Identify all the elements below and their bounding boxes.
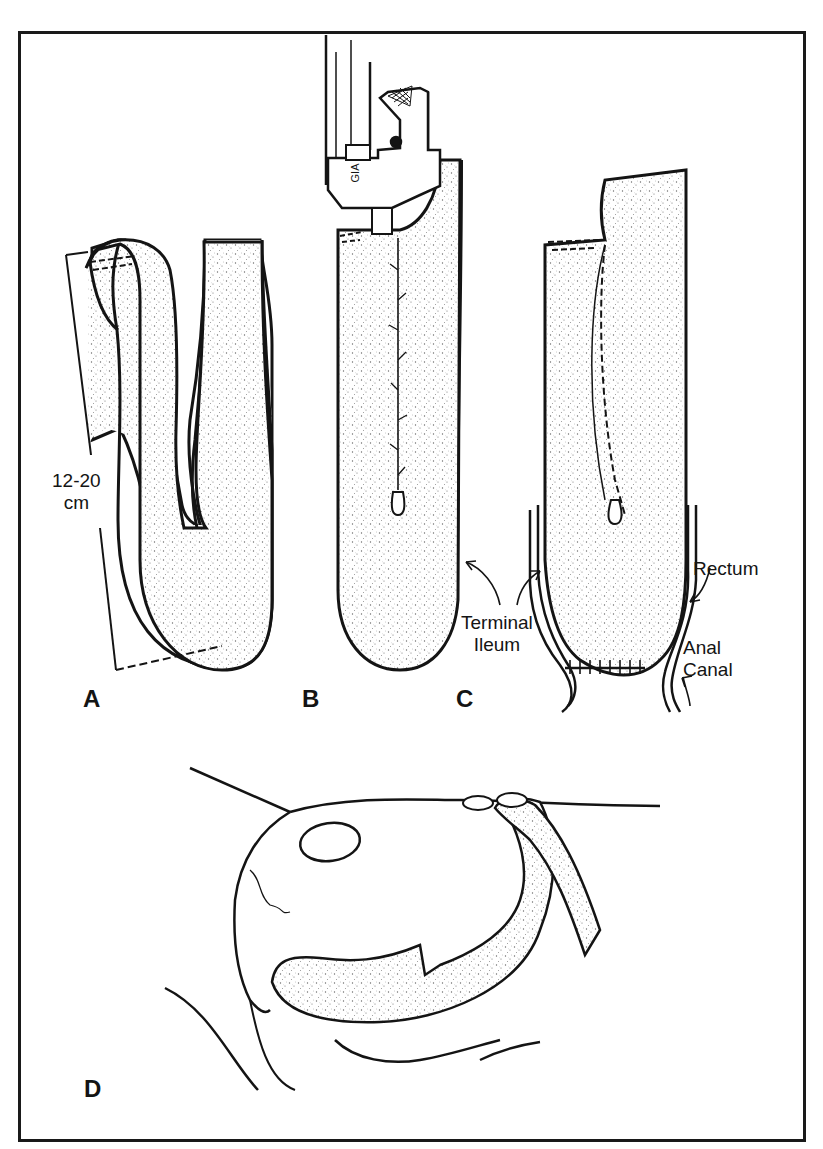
stapler-label: GIA [349, 164, 361, 183]
length-measure-value: 12-20 [52, 470, 101, 492]
panel-c-pouch [545, 170, 686, 675]
anal-canal-line2: Canal [683, 659, 733, 681]
anal-canal-line1: Anal [683, 637, 733, 659]
panel-b-bowel [338, 160, 460, 670]
panel-letter-a: A [83, 685, 100, 713]
terminal-ileum-line2: Ileum [461, 634, 533, 656]
panel-letter-d: D [84, 1075, 101, 1103]
length-measure-unit: cm [52, 492, 101, 514]
terminal-ileum-label: Terminal Ileum [461, 612, 533, 656]
length-measure-label: 12-20 cm [52, 470, 101, 514]
panel-d-ileal-pouch [272, 799, 553, 1022]
panel-letter-c: C [456, 685, 473, 713]
anal-canal-label: Anal Canal [683, 637, 733, 681]
rectum-label: Rectum [693, 558, 758, 580]
terminal-ileum-line1: Terminal [461, 612, 533, 634]
gia-stapler-icon [326, 35, 440, 234]
panel-letter-b: B [302, 685, 319, 713]
